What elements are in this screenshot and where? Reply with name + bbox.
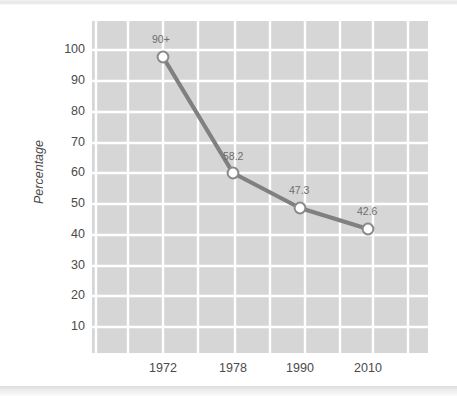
y-tick-40: 40 — [49, 228, 85, 241]
plot-area: 90+ 58.2 47.3 42.6 — [92, 21, 428, 353]
data-label-1978: 58.2 — [223, 150, 243, 162]
y-axis-tick-labels: 100 90 80 70 60 50 40 30 20 10 — [30, 0, 85, 396]
x-tick-2010: 2010 — [338, 361, 398, 375]
chart-figure: Percentage 100 90 80 70 60 50 40 30 20 1… — [0, 0, 457, 396]
y-tick-50: 50 — [49, 197, 85, 210]
vertical-gridlines — [96, 21, 408, 353]
x-tick-1978: 1978 — [203, 361, 263, 375]
y-tick-100: 100 — [49, 43, 85, 56]
y-tick-60: 60 — [49, 166, 85, 179]
data-point-1990 — [295, 203, 306, 214]
data-point-1978 — [228, 168, 239, 179]
data-label-1990: 47.3 — [289, 184, 309, 196]
data-label-2010: 42.6 — [357, 205, 377, 217]
data-label-1972: 90+ — [152, 33, 170, 45]
y-tick-80: 80 — [49, 105, 85, 118]
data-point-1972 — [158, 52, 169, 63]
x-tick-1990: 1990 — [270, 361, 330, 375]
x-tick-1972: 1972 — [133, 361, 193, 375]
y-tick-30: 30 — [49, 259, 85, 272]
y-tick-20: 20 — [49, 289, 85, 302]
y-tick-70: 70 — [49, 136, 85, 149]
y-tick-90: 90 — [49, 74, 85, 87]
y-tick-10: 10 — [49, 320, 85, 333]
data-point-2010 — [363, 224, 374, 235]
chart-svg — [92, 21, 428, 353]
